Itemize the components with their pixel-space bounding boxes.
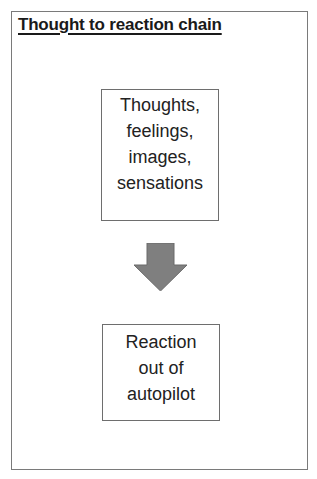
- node-line: images,: [128, 144, 191, 170]
- thoughts-node: Thoughts, feelings, images, sensations: [101, 89, 219, 221]
- node-line: feelings,: [126, 118, 193, 144]
- down-arrow-icon: [134, 243, 187, 291]
- node-line: autopilot: [127, 381, 195, 407]
- node-line: out of: [138, 355, 183, 381]
- reaction-node: Reaction out of autopilot: [102, 324, 220, 421]
- node-line: Reaction: [125, 329, 196, 355]
- node-line: Thoughts,: [120, 92, 200, 118]
- diagram-title: Thought to reaction chain: [18, 15, 222, 35]
- node-line: sensations: [117, 170, 203, 196]
